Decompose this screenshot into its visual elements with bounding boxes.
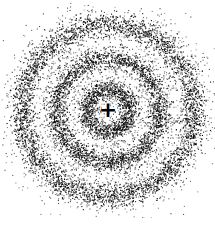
nucleus-plus-icon: +	[99, 99, 117, 121]
